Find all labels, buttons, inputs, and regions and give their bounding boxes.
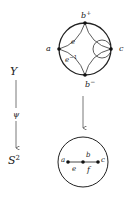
vertex-b xyxy=(81,160,85,164)
vertex-b-plus xyxy=(83,21,87,25)
label-e: e xyxy=(72,165,76,173)
label-b-minus: b− xyxy=(85,78,95,89)
diagram: b+ b− a c e e−1 Y ψ S2 a b c e f xyxy=(0,0,127,198)
label-f: f xyxy=(86,165,92,174)
top-circle-diagram: b+ b− a c e e−1 xyxy=(46,9,124,89)
vertex-c xyxy=(96,160,100,164)
vertex-a xyxy=(57,47,61,51)
left-map: Y ψ S2 xyxy=(8,65,20,167)
label-Y: Y xyxy=(10,65,19,78)
label-b: b xyxy=(86,151,91,159)
vertex-b-minus xyxy=(83,73,87,77)
label-a: a xyxy=(61,156,65,164)
label-c: c xyxy=(119,44,124,53)
vertex-a xyxy=(66,160,70,164)
label-e-inverse: e−1 xyxy=(65,54,77,64)
loop-at-c xyxy=(93,40,111,58)
vertex-c xyxy=(109,47,113,51)
bottom-circle-diagram: a b c e f xyxy=(58,137,108,187)
label-psi: ψ xyxy=(13,110,20,119)
label-a: a xyxy=(46,44,51,53)
label-b-plus: b+ xyxy=(81,9,91,20)
top-circle xyxy=(59,23,111,75)
label-S2: S2 xyxy=(8,154,20,167)
label-e: e xyxy=(71,38,75,46)
label-c: c xyxy=(101,156,105,164)
